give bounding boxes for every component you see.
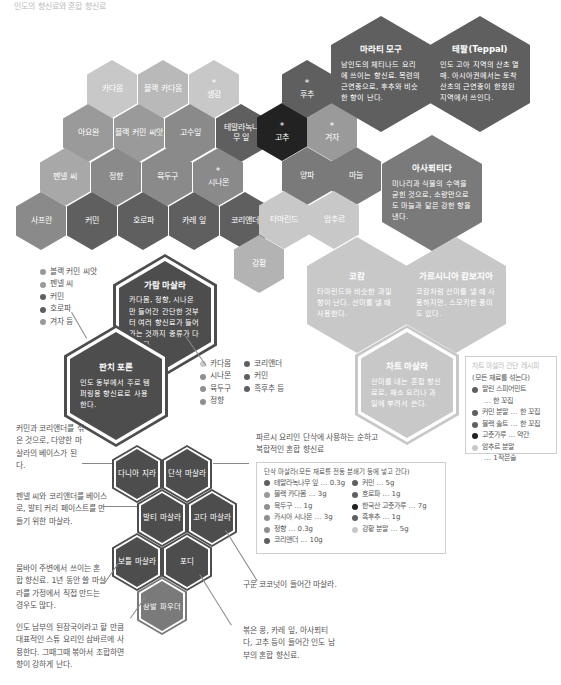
hex-label: 발티 마살라: [143, 513, 180, 522]
recipe-item: 한국산 고춧가루 … 7g: [352, 501, 427, 513]
chaat-recipe-box: 차트 마살라 간단 레시피 (모든 재료를 섞는다) 말린 스피어민트 … 한 …: [465, 356, 557, 454]
list-item: 흑후추 등: [244, 383, 284, 395]
hex-label: 고다 마살라: [193, 513, 230, 522]
recipe-item-label: 테말라녹나무 잎 … 0.3g: [274, 478, 345, 490]
connector-line: [102, 506, 137, 507]
recipe-item-label: 코리앤더 … 10g: [274, 535, 323, 547]
hex-description: 남인도의 체티나드 요리에 쓰이는 향신료. 목련의 근연종으로, 후추와 비슷…: [331, 59, 431, 104]
recipe-item: 정향 … 0.3g: [264, 524, 352, 536]
panch-phoron-list: 블랙 커민 씨앗 펜넬 씨 커민 호로파 겨자 등: [40, 266, 97, 328]
star-icon: *: [330, 122, 335, 131]
bullet-icon: [472, 445, 478, 451]
bullet-icon: [264, 527, 270, 533]
list-item: 코리앤더: [244, 358, 284, 370]
bullet-icon: [244, 361, 250, 367]
list-item: 커민: [40, 291, 97, 303]
hex-description: 인도 동부에서 주로 템퍼링용 향신료로 사용한다.: [70, 377, 162, 410]
hex-label: 카레 잎: [182, 216, 206, 226]
recipe-item-label: 커민 … 5g: [362, 478, 394, 490]
hex-label: 코리앤더: [231, 216, 259, 226]
recipe-subheader: (모든 재료를 섞는다): [472, 373, 550, 385]
bullet-icon: [40, 294, 46, 300]
list-item-label: 블랙 커민 씨앗: [50, 266, 97, 278]
recipe-col1: 테말라녹나무 잎 … 0.3g 블랙 카다몸 … 3g 육두구 … 1g 카시아…: [264, 478, 352, 547]
bullet-icon: [244, 374, 250, 380]
hex-label: 생강: [207, 90, 221, 100]
bullet-icon: [472, 387, 478, 393]
recipe-item: 강황 분말 … 5g: [352, 524, 427, 536]
recipe-item-cont: … 1작은술: [472, 453, 550, 465]
hex-title: 코캄: [349, 271, 365, 282]
recipe-item-label: 말린 스피어민트: [482, 384, 526, 396]
hex-title: 가람 마살라: [144, 280, 187, 291]
page-title: 인도의 향신료와 혼합 향신료: [14, 0, 106, 11]
list-item-label: 시나몬: [210, 370, 231, 382]
recipe-item-label: 암추르 분말: [482, 442, 514, 454]
note-bottle: 뭄바이 주변에서 쓰이는 혼합 향신료. 1년 동안 쓸 마살라를 가정에서 직…: [16, 563, 106, 613]
hex-asafoetida: 아사푀티다 미나리과 식물의 수액을 굳힌 것으로, 소량만으로도 마늘과 닮은…: [382, 135, 482, 251]
recipe-item: 커민 분말 … 한 꼬집: [472, 407, 550, 419]
hex-label: 보틀 마살라: [118, 557, 155, 566]
recipe-col2: 커민 … 5g 호로파 … 1g 한국산 고춧가루 … 7g 흑후추 … 1g …: [352, 478, 427, 547]
garam-masala-list-col2: 코리앤더 커민 흑후추 등: [244, 358, 284, 395]
recipe-item: 흑후추 … 1g: [352, 512, 427, 524]
hex-label: 블랙 카다몸: [144, 84, 182, 94]
hex-label: 단삭 마살라: [168, 469, 205, 478]
hex-label: 육두구: [157, 172, 178, 182]
hex-label: 타마린드: [270, 215, 298, 225]
hex-title: 아사푀티다: [412, 163, 452, 174]
hex-label: 암추르: [324, 215, 345, 225]
recipe-item-label: 카시아 시나몬 … 3g: [274, 512, 333, 524]
note-dhaniya-jeera: 커민과 코리앤더를 섞은 것으로, 다양한 마살라의 베이스가 된다.: [16, 423, 84, 473]
bullet-icon: [472, 410, 478, 416]
list-item: 펜넬 씨: [40, 278, 97, 290]
bullet-icon: [40, 269, 46, 275]
note-sambar: 인도 남부의 된장국이라고 할 만큼 대표적인 스튜 요리인 삼바르에 사용한다…: [16, 622, 130, 672]
list-item: 시나몬: [200, 370, 231, 382]
hex-label: 강황: [252, 259, 266, 269]
hex-label: 펜넬 씨: [53, 172, 77, 182]
bullet-icon: [200, 399, 206, 405]
recipe-item: 커민 … 5g: [352, 478, 427, 490]
recipe-item: 말린 스피어민트: [472, 384, 550, 396]
recipe-item: 블랙 솔트 … 한 꼬집: [472, 419, 550, 431]
note-dhansak: 파르시 요리인 단삭에 사용하는 순하고 복합적인 혼합 향신료: [256, 432, 381, 457]
bullet-icon: [244, 386, 250, 392]
list-item: 블랙 커민 씨앗: [40, 266, 97, 278]
hex-title: 테팔(Teppal): [452, 44, 507, 55]
recipe-item: 코리앤더 … 10g: [264, 535, 352, 547]
recipe-header: 단삭 마살라(모든 재료를 전동 분쇄기 등에 넣고 간다): [264, 467, 438, 478]
bullet-icon: [40, 319, 46, 325]
bullet-icon: [264, 480, 270, 486]
recipe-item-label: 블랙 카다몸 … 3g: [274, 489, 327, 501]
recipe-item-cont: … 한 꼬집: [472, 396, 550, 408]
dhansak-recipe-box: 단삭 마살라(모든 재료를 전동 분쇄기 등에 넣고 간다) 테말라녹나무 잎 …: [256, 462, 446, 554]
recipe-item: 블랙 카다몸 … 3g: [264, 489, 352, 501]
bullet-icon: [264, 538, 270, 544]
hex-label: 사프란: [31, 216, 52, 226]
list-item-label: 흑후추 등: [254, 383, 284, 395]
recipe-item-label: 호로파 … 1g: [362, 489, 400, 501]
bullet-icon: [472, 433, 478, 439]
list-item-label: 정향: [210, 395, 224, 407]
list-item-label: 커민: [254, 370, 268, 382]
recipe-item-label: 흑후추 … 1g: [362, 512, 400, 524]
hex-description: 코캄처럼 산미를 낼 때 사용하지만, 스모키한 풍미도 있다.: [406, 286, 506, 319]
recipe-item-label: 강황 분말 … 5g: [362, 524, 409, 536]
list-item-label: 겨자 등: [50, 316, 73, 328]
hex-label: 블랙 커민 씨앗: [115, 128, 162, 138]
list-item-label: 커민: [50, 291, 64, 303]
recipe-item-label: 블랙 솔트 … 한 꼬집: [482, 419, 540, 431]
recipe-item: 고춧가루 … 약간: [472, 430, 550, 442]
bullet-icon: [352, 480, 358, 486]
list-item-label: 호로파: [50, 303, 71, 315]
note-podi: 볶은 콩, 카레 잎, 아사푀티다, 고추 등이 들어간 인도 남부의 혼합 향…: [243, 625, 335, 662]
bullet-icon: [472, 422, 478, 428]
recipe-item: 호로파 … 1g: [352, 489, 427, 501]
hex-description: 산미를 내는 혼합 향신료로, 채소 요리나 과일에 뿌려서 쓴다.: [361, 376, 453, 409]
hex-label: 정향: [109, 172, 123, 182]
hex-label: 포디: [180, 557, 194, 566]
recipe-item-label: 한국산 고춧가루 … 7g: [362, 501, 427, 513]
recipe-item-label: 커민 분말 … 한 꼬집: [482, 407, 540, 419]
hex-label: 카다몸: [102, 84, 123, 94]
